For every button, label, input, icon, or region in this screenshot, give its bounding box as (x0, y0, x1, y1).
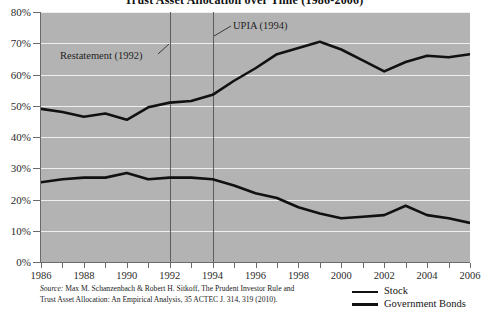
x-axis-tick (105, 263, 106, 268)
chart-legend: Stock Government Bonds (352, 285, 488, 311)
y-axis-tick (33, 75, 41, 76)
y-axis-tick (33, 168, 41, 169)
x-axis-label: 2000 (331, 270, 352, 281)
x-axis-label: 2002 (374, 270, 395, 281)
y-axis-tick (33, 106, 41, 107)
x-axis-tick (341, 263, 342, 268)
x-axis-tick (84, 263, 85, 268)
y-axis-tick (33, 137, 41, 138)
x-axis-tick (234, 263, 235, 268)
x-axis-tick (470, 263, 471, 268)
x-axis-tick (170, 263, 171, 268)
legend-item-stock: Stock (352, 285, 488, 298)
legend-swatch-government-bonds-icon (352, 303, 378, 306)
x-axis-tick (62, 263, 63, 268)
x-axis-label: 2004 (417, 270, 438, 281)
legend-label-stock: Stock (384, 286, 408, 297)
y-axis-label: 60% (0, 69, 31, 81)
legend-label-government-bonds: Government Bonds (384, 299, 466, 310)
x-axis-tick (449, 263, 450, 268)
legend-swatch-stock-icon (352, 291, 378, 293)
x-axis-label: 1986 (31, 270, 52, 281)
x-axis-tick (384, 263, 385, 268)
x-axis-tick (127, 263, 128, 268)
x-axis-tick (148, 263, 149, 268)
x-axis-label: 1994 (202, 270, 223, 281)
y-axis-label: 30% (0, 162, 31, 174)
x-axis-tick (191, 263, 192, 268)
y-axis-tick (33, 231, 41, 232)
x-axis-tick (320, 263, 321, 268)
y-axis-label: 20% (0, 194, 31, 206)
x-axis-tick (298, 263, 299, 268)
x-axis-label: 1998 (288, 270, 309, 281)
chart-title: Trust Asset Allocation over Time (1986-2… (0, 0, 488, 8)
x-axis-label: 1992 (159, 270, 180, 281)
x-axis-tick (363, 263, 364, 268)
x-axis-label: 1990 (116, 270, 137, 281)
y-axis-tick (33, 12, 41, 13)
y-axis-label: 40% (0, 131, 31, 143)
x-axis-tick (256, 263, 257, 268)
chart-container: Trust Asset Allocation over Time (1986-2… (0, 0, 488, 316)
x-axis-tick (213, 263, 214, 268)
y-axis-tick (33, 262, 41, 263)
x-axis-tick (277, 263, 278, 268)
legend-item-government-bonds: Government Bonds (352, 298, 488, 311)
series-line (41, 173, 470, 223)
annotation-upia: UPIA (1994) (233, 20, 288, 31)
y-axis-label: 10% (0, 225, 31, 237)
x-axis-tick (406, 263, 407, 268)
annotation-restatement: Restatement (1992) (60, 50, 143, 61)
source-line-1: Max M. Schanzenbach & Robert H. Sitkoff,… (63, 284, 294, 293)
source-line-2: Trust Asset Allocation: An Empirical Ana… (40, 295, 277, 304)
y-axis-label: 50% (0, 100, 31, 112)
source-note: Source: Max M. Schanzenbach & Robert H. … (40, 284, 340, 306)
x-axis-label: 1988 (73, 270, 94, 281)
source-lead: Source: (40, 284, 63, 293)
y-axis-tick (33, 43, 41, 44)
y-axis-label: 70% (0, 37, 31, 49)
y-axis-tick (33, 200, 41, 201)
x-axis-tick (41, 263, 42, 268)
x-axis-tick (427, 263, 428, 268)
x-axis-label: 1996 (245, 270, 266, 281)
y-axis-label: 0% (0, 256, 31, 268)
x-axis-label: 2006 (460, 270, 481, 281)
y-axis-label: 80% (0, 6, 31, 18)
